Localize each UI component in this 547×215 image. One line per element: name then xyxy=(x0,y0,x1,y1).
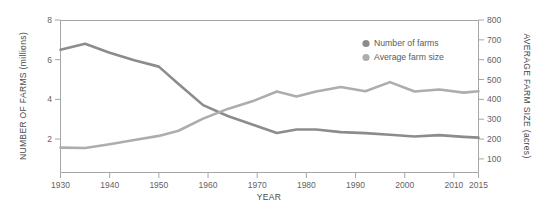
series-line-average-farm-size xyxy=(61,82,479,148)
left-tick-label: 6 xyxy=(47,55,52,65)
legend-swatch xyxy=(362,54,369,61)
legend: Number of farmsAverage farm size xyxy=(362,38,444,62)
x-tick-label: 1950 xyxy=(149,180,168,190)
x-tick-label: 2010 xyxy=(444,180,463,190)
y-axis-title: NUMBER OF FARMS (millions) xyxy=(18,32,28,160)
x-tick-label: 1990 xyxy=(346,180,365,190)
x-tick-label: 1930 xyxy=(51,180,70,190)
left-tick-label: 2 xyxy=(47,134,52,144)
chart-figure: 2468 100200300400500600700800 1930194019… xyxy=(0,0,547,215)
legend-label: Average farm size xyxy=(374,52,444,62)
right-tick-label: 400 xyxy=(487,94,501,104)
right-tick-label: 700 xyxy=(487,35,501,45)
left-axis-ticks: 2468 xyxy=(47,15,60,144)
left-tick-label: 8 xyxy=(47,15,52,25)
x-tick-label: 2015 xyxy=(469,180,488,190)
x-tick-label: 2000 xyxy=(395,180,414,190)
chart-canvas: 2468 100200300400500600700800 1930194019… xyxy=(0,0,547,215)
y2-axis-title: AVERAGE FARM SIZE (acres) xyxy=(522,33,532,158)
legend-swatch xyxy=(362,40,369,47)
left-tick-label: 4 xyxy=(47,94,52,104)
x-tick-label: 1970 xyxy=(248,180,267,190)
x-axis-ticks: 1930194019501960197019801990200020102015 xyxy=(51,173,488,191)
right-tick-label: 500 xyxy=(487,75,501,85)
x-tick-label: 1980 xyxy=(297,180,316,190)
x-tick-label: 1940 xyxy=(100,180,119,190)
right-tick-label: 200 xyxy=(487,134,501,144)
right-axis-ticks: 100200300400500600700800 xyxy=(479,15,502,164)
right-tick-label: 300 xyxy=(487,114,501,124)
x-axis-title: YEAR xyxy=(257,192,282,202)
right-tick-label: 600 xyxy=(487,55,501,65)
x-tick-label: 1960 xyxy=(199,180,218,190)
right-tick-label: 100 xyxy=(487,154,501,164)
legend-label: Number of farms xyxy=(374,38,439,48)
right-tick-label: 800 xyxy=(487,15,501,25)
